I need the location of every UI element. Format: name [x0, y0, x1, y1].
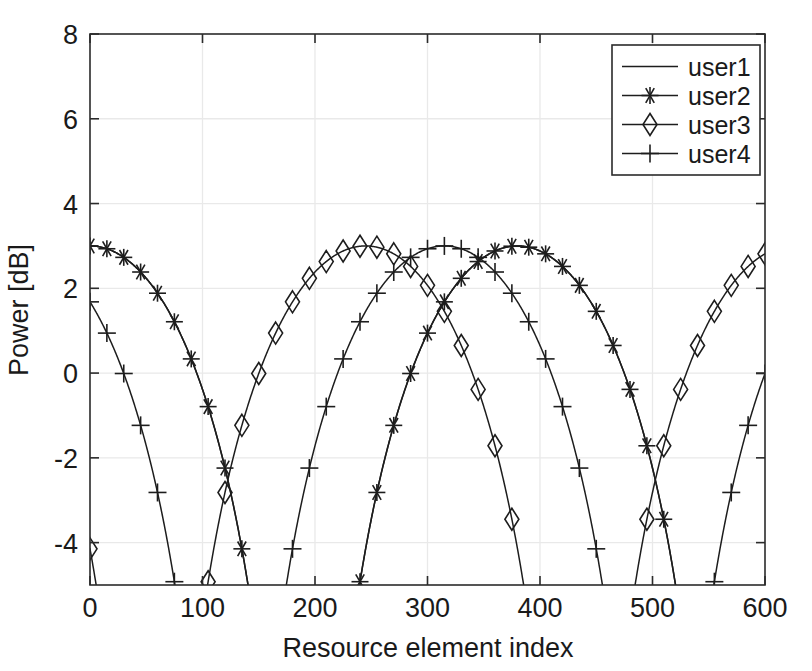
- y-tick-label: 0: [63, 359, 78, 389]
- y-tick-label: -4: [54, 529, 78, 559]
- legend-label: user3: [688, 111, 751, 139]
- legend-label: user4: [688, 140, 751, 168]
- legend-label: user2: [688, 82, 751, 110]
- chart-figure: 0100200300400500600-4-202468 Resource el…: [0, 0, 812, 671]
- x-axis-title: Resource element index: [282, 633, 574, 663]
- y-tick-label: 2: [63, 274, 78, 304]
- y-tick-label: 8: [63, 20, 78, 50]
- y-tick-label: 4: [63, 190, 78, 220]
- y-tick-label: -2: [54, 444, 78, 474]
- x-tick-label: 400: [517, 593, 562, 623]
- x-tick-label: 300: [405, 593, 450, 623]
- x-tick-label: 500: [630, 593, 675, 623]
- legend[interactable]: user1user2user3user4: [612, 45, 760, 175]
- x-tick-label: 0: [82, 593, 97, 623]
- y-axis-title: Power [dB]: [4, 244, 34, 376]
- x-tick-label: 100: [180, 593, 225, 623]
- x-tick-label: 600: [742, 593, 787, 623]
- y-tick-label: 6: [63, 105, 78, 135]
- power-vs-resource-element-plot: 0100200300400500600-4-202468 Resource el…: [0, 0, 812, 671]
- x-tick-label: 200: [292, 593, 337, 623]
- legend-label: user1: [688, 53, 751, 81]
